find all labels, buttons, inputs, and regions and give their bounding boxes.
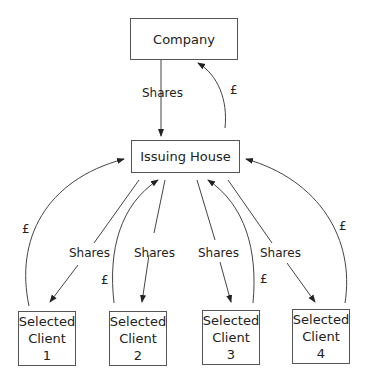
client-1-number: 1 — [43, 347, 51, 364]
client-1-line1: Selected — [19, 313, 75, 330]
edge-label-client1-to-house: £ — [22, 222, 30, 236]
edge-label-client2-to-house: £ — [101, 273, 109, 287]
arrow-client1-to-house — [26, 159, 124, 306]
selected-client-4-node: Selected Client 4 — [292, 309, 350, 364]
edge-label-company-to-house: Shares — [142, 86, 183, 100]
edge-label-house-to-client4: Shares — [260, 246, 301, 260]
selected-client-1-node: Selected Client 1 — [18, 311, 76, 366]
client-2-line2: Client — [119, 330, 157, 347]
client-4-line1: Selected — [293, 311, 349, 328]
arrow-client2-to-house — [113, 180, 158, 303]
client-2-number: 2 — [134, 347, 142, 364]
edge-label-house-to-client1: Shares — [69, 246, 110, 260]
edge-label-house-to-company: £ — [230, 83, 238, 97]
arrow-house-to-client2 — [142, 180, 165, 302]
issuing-house-label: Issuing House — [140, 148, 231, 165]
arrow-house-to-client1 — [50, 180, 139, 302]
edge-label-client4-to-house: £ — [339, 219, 347, 233]
client-2-line1: Selected — [110, 313, 166, 330]
edge-label-house-to-client3: Shares — [198, 246, 239, 260]
arrow-client3-to-house — [208, 180, 254, 303]
arrow-house-to-client4 — [228, 180, 315, 302]
edge-label-house-to-client2: Shares — [134, 246, 175, 260]
edge-label-client3-to-house: £ — [260, 272, 268, 286]
client-3-line2: Client — [212, 329, 250, 346]
client-3-number: 3 — [227, 346, 235, 363]
selected-client-2-node: Selected Client 2 — [109, 311, 167, 366]
company-node: Company — [130, 18, 238, 60]
company-label: Company — [153, 31, 215, 48]
client-1-line2: Client — [28, 330, 66, 347]
client-4-line2: Client — [302, 328, 340, 345]
arrow-house-to-company — [198, 63, 226, 128]
selected-client-3-node: Selected Client 3 — [202, 310, 260, 365]
client-3-line1: Selected — [203, 312, 259, 329]
arrow-house-to-client3 — [197, 180, 231, 302]
client-4-number: 4 — [317, 345, 325, 362]
issuing-house-node: Issuing House — [131, 140, 240, 173]
